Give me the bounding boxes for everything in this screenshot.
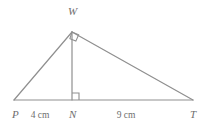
vertex-label-p: P	[11, 108, 19, 120]
vertex-label-w: W	[68, 5, 78, 17]
segment-wt	[72, 32, 193, 100]
vertex-label-n: N	[68, 108, 77, 120]
segment-pw	[14, 32, 72, 100]
geometry-canvas: W P N T 4 cm 9 cm	[0, 0, 205, 125]
right-angle-at-n-icon	[72, 93, 79, 100]
vertex-label-t: T	[190, 108, 197, 120]
measure-label-pn: 4 cm	[31, 110, 50, 120]
right-angle-at-w-icon	[70, 32, 79, 41]
measure-label-nt: 9 cm	[117, 110, 136, 120]
geometry-figure: W P N T 4 cm 9 cm	[0, 0, 205, 125]
